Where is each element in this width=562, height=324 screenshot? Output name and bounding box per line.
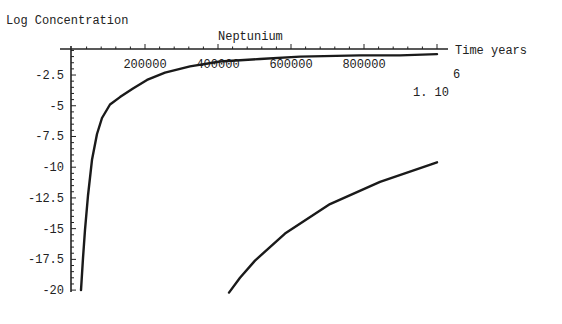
y-ticks: -2.5-5-7.5-10-12.5-15-17.5-20 <box>28 50 76 298</box>
y-tick-label: -12.5 <box>28 192 64 206</box>
x-multiplier-base: 1. 10 <box>413 86 449 100</box>
y-tick-label: -7.5 <box>35 130 64 144</box>
x-tick-label: 600000 <box>269 58 312 72</box>
y-tick-label: -5 <box>50 100 64 114</box>
y-tick-label: -20 <box>42 284 64 298</box>
chart-title: Neptunium <box>218 30 283 44</box>
series-line-curve-1 <box>81 54 437 290</box>
chart-canvas: 200000400000600000800000 -2.5-5-7.5-10-1… <box>0 0 562 324</box>
x-tick-label: 800000 <box>342 58 385 72</box>
series-group <box>81 54 437 293</box>
y-tick-label: -15 <box>42 223 64 237</box>
y-tick-label: -2.5 <box>35 69 64 83</box>
series-line-curve-2 <box>229 162 437 292</box>
y-tick-label: -10 <box>42 161 64 175</box>
y-tick-label: -17.5 <box>28 253 64 267</box>
y-axis-label: Log Concentration <box>6 14 128 28</box>
x-axis-label: Time years <box>455 44 527 58</box>
x-tick-label: 200000 <box>123 58 166 72</box>
x-multiplier-exponent: 6 <box>453 68 460 82</box>
